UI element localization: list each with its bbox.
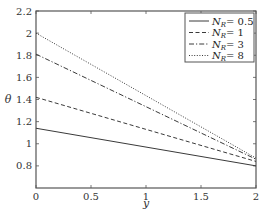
x-tick-label: 0 [33, 191, 39, 202]
x-axis-label: y [142, 197, 150, 210]
y-tick-label: 0.8 [16, 160, 32, 171]
series-line-1 [36, 97, 256, 161]
y-tick-label: 1.2 [16, 116, 32, 127]
y-tick-label: 1.4 [16, 94, 32, 105]
legend: NR= 0.5NR= 1NR= 3NR= 8 [185, 13, 254, 63]
y-tick-label: 1.6 [16, 72, 32, 83]
x-tick-label: 1.5 [193, 191, 209, 202]
y-tick-label: 2 [26, 28, 32, 39]
series-line-0 [36, 128, 256, 166]
y-axis-label: θ [5, 93, 12, 106]
y-tick-label: 2.2 [16, 6, 32, 17]
y-tick-label: 1.8 [16, 50, 32, 61]
x-tick-label: 0.5 [83, 191, 99, 202]
y-tick-label: 1 [26, 138, 32, 149]
x-tick-label: 2 [253, 191, 259, 202]
line-chart: 0.811.21.41.61.822.2 00.511.52 NR= 0.5NR… [0, 0, 265, 218]
